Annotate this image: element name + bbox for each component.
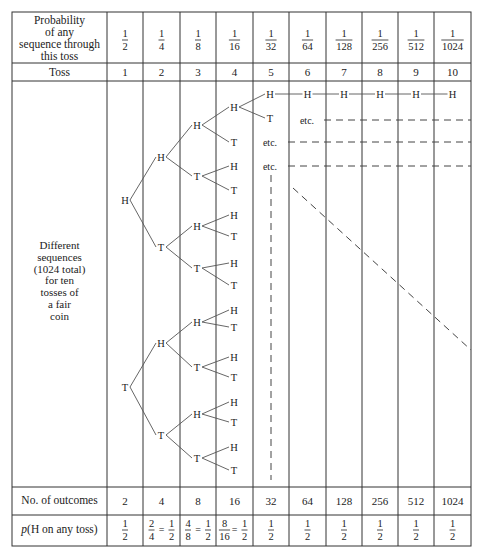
p-fraction-numerator: 1 — [450, 518, 455, 529]
p-fraction-denominator: 8 — [185, 531, 190, 542]
outcome-count: 256 — [372, 495, 389, 507]
probability-fraction-numerator: 1 — [232, 28, 237, 39]
probability-fraction-denominator: 1024 — [442, 41, 464, 52]
tails-node: T — [231, 417, 238, 428]
tree-branch — [166, 343, 192, 367]
probability-fraction-denominator: 8 — [195, 41, 200, 52]
p-fraction-numerator: 1 — [122, 518, 127, 529]
probability-fraction-denominator: 128 — [336, 41, 352, 52]
outcome-count: 1024 — [442, 495, 465, 507]
p-fraction-denominator: 4 — [149, 531, 155, 542]
p-fraction-numerator: 1 — [341, 518, 346, 529]
tree-branch — [166, 247, 192, 268]
diagonal-dashed-line — [293, 188, 471, 350]
heads-node: H — [157, 338, 165, 349]
tree-branch — [166, 226, 192, 247]
equals-sign: = — [195, 524, 201, 535]
heads-node: H — [193, 221, 201, 232]
probability-fraction-numerator: 1 — [413, 28, 418, 39]
tails-node: T — [194, 263, 201, 274]
outcomes-label: No. of outcomes — [12, 494, 107, 506]
tails-node: T — [231, 231, 238, 242]
p-fraction-denominator: 2 — [205, 531, 210, 542]
outcome-count: 64 — [302, 495, 314, 507]
probability-fraction-numerator: 1 — [122, 28, 127, 39]
header-label-line: this toss — [12, 50, 107, 62]
tree-branch — [166, 435, 192, 458]
heads-node: H — [193, 120, 201, 131]
heads-node: H — [449, 89, 457, 100]
probability-fraction-denominator: 64 — [302, 41, 313, 52]
tails-node: T — [231, 185, 238, 196]
probability-fraction-numerator: 1 — [159, 28, 164, 39]
probability-fraction-numerator: 1 — [268, 28, 273, 39]
tree-label-line: sequences — [12, 252, 107, 264]
toss-number: 10 — [447, 66, 459, 78]
tails-node: T — [231, 137, 238, 148]
toss-number: 5 — [268, 66, 274, 78]
tree-branch — [166, 125, 192, 157]
probability-fraction-denominator: 4 — [159, 41, 165, 52]
tails-node: T — [194, 171, 201, 182]
p-fraction-numerator: 4 — [185, 518, 191, 529]
p-fraction-numerator: 1 — [242, 518, 247, 529]
p-fraction-numerator: 1 — [377, 518, 382, 529]
etc-label: etc. — [263, 161, 277, 172]
equals-sign: = — [232, 524, 238, 535]
tree-label-line: a fair — [12, 299, 107, 311]
p-fraction-numerator: 2 — [149, 518, 154, 529]
p-fraction-denominator: 2 — [242, 531, 247, 542]
p-fraction-numerator: 8 — [222, 518, 227, 529]
probability-fraction-numerator: 1 — [305, 28, 310, 39]
p-fraction-denominator: 2 — [413, 531, 418, 542]
tree-label: Different sequences (1024 total) for ten… — [12, 240, 107, 323]
outcome-count: 16 — [229, 495, 241, 507]
outcome-count: 512 — [408, 495, 425, 507]
tails-node: T — [231, 372, 238, 383]
outcome-count: 4 — [159, 495, 165, 507]
heads-node: H — [121, 195, 129, 206]
tree-branch — [166, 157, 192, 176]
probability-fraction-denominator: 2 — [122, 41, 127, 52]
toss-number: 7 — [341, 66, 347, 78]
probability-fraction-denominator: 512 — [408, 41, 424, 52]
tails-node: T — [267, 113, 274, 124]
heads-node: H — [230, 210, 238, 221]
p-fraction-denominator: 2 — [305, 531, 310, 542]
p-fraction-denominator: 2 — [450, 531, 455, 542]
p-fraction-denominator: 2 — [377, 531, 382, 542]
probability-fraction-denominator: 16 — [229, 41, 240, 52]
tails-node: T — [122, 382, 129, 393]
heads-node: H — [230, 397, 238, 408]
p-fraction-numerator: 1 — [205, 518, 210, 529]
heads-node: H — [157, 152, 165, 163]
heads-node: H — [412, 89, 420, 100]
probability-fraction-numerator: 1 — [377, 28, 382, 39]
header-label: Probability of any sequence through this… — [12, 14, 107, 62]
toss-number: 2 — [159, 66, 165, 78]
tails-node: T — [194, 453, 201, 464]
etc-label: etc. — [300, 115, 314, 126]
p-fraction-numerator: 1 — [305, 518, 310, 529]
tree-branch — [239, 94, 265, 107]
toss-label: Toss — [12, 66, 107, 78]
equals-sign: = — [159, 524, 165, 535]
probability-fraction-denominator: 32 — [266, 41, 277, 52]
etc-label: etc. — [263, 137, 277, 148]
header-label-line: sequence through — [12, 38, 107, 50]
p-fraction-numerator: 1 — [169, 518, 174, 529]
heads-node: H — [340, 89, 348, 100]
header-label-line: Probability — [12, 14, 107, 26]
p-fraction-numerator: 1 — [268, 518, 273, 529]
tails-node: T — [231, 322, 238, 333]
heads-node: H — [230, 258, 238, 269]
toss-number: 6 — [305, 66, 311, 78]
heads-node: H — [266, 89, 274, 100]
tree-branch — [166, 322, 192, 343]
heads-node: H — [230, 161, 238, 172]
heads-node: H — [193, 317, 201, 328]
probability-fraction-numerator: 1 — [195, 28, 200, 39]
toss-number: 1 — [122, 66, 128, 78]
heads-node: H — [230, 352, 238, 363]
tails-node: T — [158, 242, 165, 253]
